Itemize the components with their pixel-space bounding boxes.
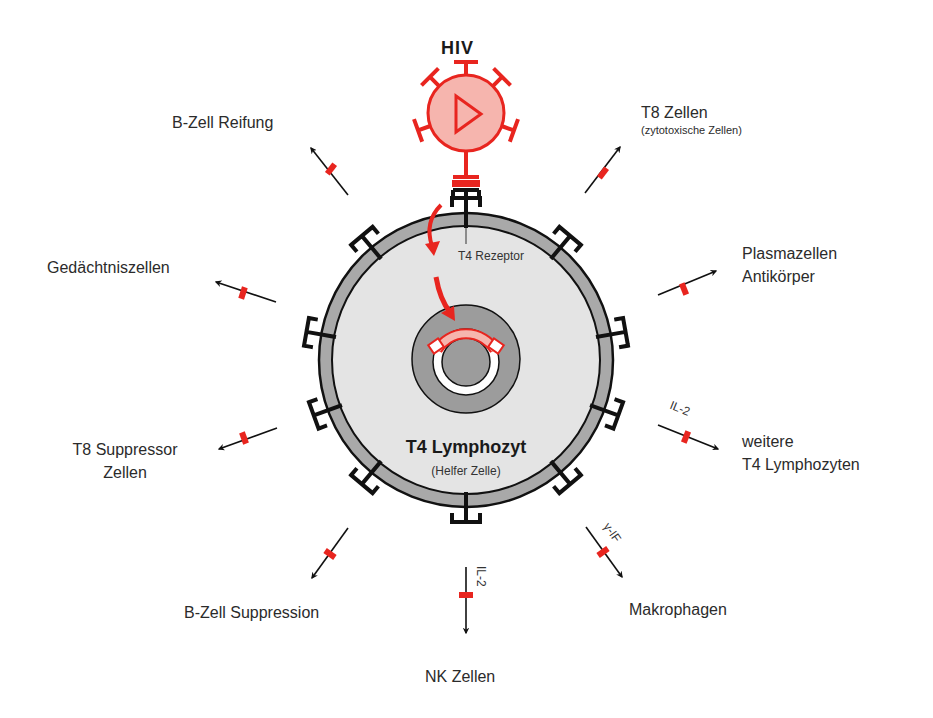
label-gedaechtniszellen: Gedächtniszellen (47, 258, 170, 278)
label-t8-suppressor: T8 Suppressor (60, 440, 190, 460)
cell-title: T4 Lymphozyt (366, 437, 566, 458)
label-t8-zellen: T8 Zellen (641, 103, 708, 123)
label-antikoerper: Antikörper (742, 267, 815, 287)
cell-subtitle: (Helfer Zelle) (366, 464, 566, 478)
label-t4-lymphozyten: T4 Lymphozyten (742, 455, 860, 475)
label-t8-suppressor-zellen: Zellen (60, 463, 190, 483)
hiv-virion (414, 62, 518, 212)
hiv-t4-diagram (0, 0, 933, 718)
t4-receptor-label: T4 Rezeptor (458, 249, 524, 263)
label-t8-zellen-sub: (zytotoxische Zellen) (641, 123, 742, 137)
label-b-zell-suppression: B-Zell Suppression (184, 603, 319, 623)
label-b-zell-reifung: B-Zell Reifung (172, 113, 273, 133)
signal-il2-nk: IL-2 (474, 566, 488, 587)
label-makrophagen: Makrophagen (629, 600, 727, 620)
label-weitere: weitere (742, 432, 794, 452)
label-nk-zellen: NK Zellen (425, 667, 495, 687)
hiv-label: HIV (441, 38, 474, 59)
label-plasmazellen: Plasmazellen (742, 244, 837, 264)
nucleus (412, 305, 520, 413)
